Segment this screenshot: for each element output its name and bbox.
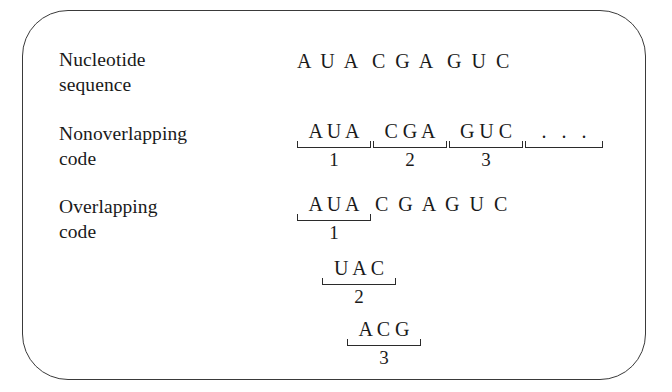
codon-index: 1: [297, 149, 371, 171]
overlapping-frame-2: U A C 2: [322, 256, 396, 308]
overlapping-frame-3: A C G 3: [347, 317, 421, 369]
row-label-nonoverlapping-code: Nonoverlapping code: [59, 121, 187, 171]
row-label-overlapping-code: Overlapping code: [59, 194, 158, 244]
ellipsis-dots: . . .: [525, 119, 603, 143]
figure-border-frame: Nucleotide sequence A U A C G A G U C No…: [22, 10, 646, 380]
codon-index: 3: [347, 347, 421, 369]
nonoverlapping-codon-1: A U A 1: [297, 119, 371, 171]
nonoverlapping-codon-2: C G A 2: [373, 119, 447, 171]
nonoverlapping-codon-ellipsis: . . .: [525, 119, 603, 149]
nucleotide-sequence-letters: A U A C G A G U C: [297, 49, 509, 73]
nonoverlapping-codon-3: G U C 3: [449, 119, 523, 171]
codon-index: 3: [449, 149, 523, 171]
codon-letters: C G A: [373, 119, 447, 143]
codon-letters: A U A: [297, 192, 371, 216]
overlapping-frame-1: A U A 1: [297, 192, 371, 244]
codon-letters: G U C: [449, 119, 523, 143]
codon-letters: U A C: [322, 256, 396, 280]
codon-letters: A U A: [297, 119, 371, 143]
codon-index: 2: [322, 286, 396, 308]
codon-index: 1: [297, 222, 371, 244]
codon-letters: A C G: [347, 317, 421, 341]
overlapping-frame-1-tail: C G A G U C: [375, 192, 507, 216]
row-label-nucleotide-sequence: Nucleotide sequence: [59, 47, 146, 97]
codon-index: 2: [373, 149, 447, 171]
